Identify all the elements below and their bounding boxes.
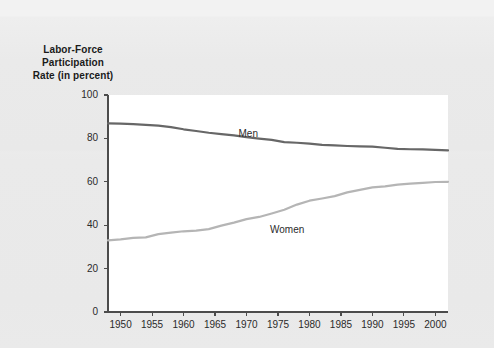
y-tick-label: 80 — [58, 133, 98, 143]
series-label-men: Men — [239, 128, 258, 139]
x-tick-label: 2000 — [415, 320, 455, 330]
chart-svg — [0, 0, 494, 348]
y-tick-label: 0 — [58, 307, 98, 317]
y-tick-label: 40 — [58, 220, 98, 230]
y-tick-label: 60 — [58, 177, 98, 187]
chart-axes — [104, 95, 448, 316]
series-line-men — [108, 123, 448, 150]
y-tick-label: 20 — [58, 264, 98, 274]
y-tick-label: 100 — [58, 90, 98, 100]
series-label-women: Women — [270, 224, 304, 235]
axis-lines — [108, 95, 448, 312]
